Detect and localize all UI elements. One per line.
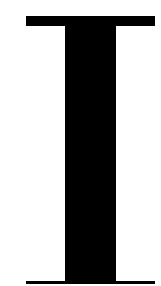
i-beam-cursor-icon: I: [0, 0, 161, 286]
i-beam-stem: [65, 26, 116, 282]
i-beam-top-serif: [26, 16, 155, 26]
i-beam-bottom-serif: [26, 281, 155, 284]
